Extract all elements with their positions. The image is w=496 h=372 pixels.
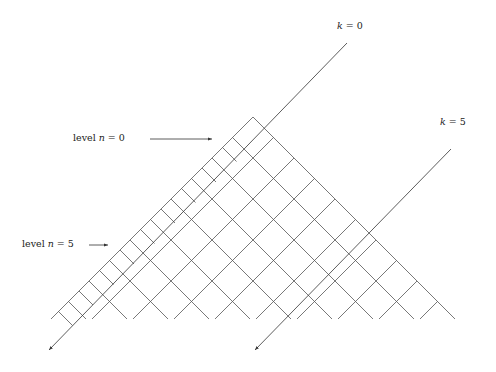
level-arrows (89, 139, 212, 245)
label-k-5: k = 5 (440, 116, 466, 127)
lattice-line (253, 117, 455, 319)
lattice-line (171, 199, 291, 319)
lattice-line (212, 158, 373, 319)
lattice-stub (79, 291, 93, 305)
lattice-stub (100, 271, 114, 285)
lattice-line (233, 138, 415, 320)
lattice-line (92, 138, 274, 320)
lattice-line (215, 199, 335, 319)
lattice-line (379, 281, 417, 319)
label-k-0: k = 0 (337, 20, 363, 31)
lattice-stub (120, 250, 134, 264)
lattice-line (69, 302, 87, 320)
lattice-line (256, 220, 356, 320)
lattice-stub (141, 230, 155, 244)
lattice-stub (182, 189, 196, 203)
lattice-diagram (0, 0, 496, 372)
lattice-line (297, 240, 376, 319)
lattice-line (130, 240, 209, 319)
k-0-line (49, 43, 347, 350)
lattice-grid (51, 117, 455, 326)
lattice-stub (59, 312, 73, 326)
lattice-line (192, 179, 333, 320)
label-level-0: level n = 0 (73, 132, 125, 143)
lattice-stub (161, 209, 175, 223)
lattice-line (89, 281, 127, 319)
lattice-line (420, 302, 438, 320)
label-level-5: level n = 5 (22, 238, 74, 249)
lattice-line (151, 220, 251, 320)
